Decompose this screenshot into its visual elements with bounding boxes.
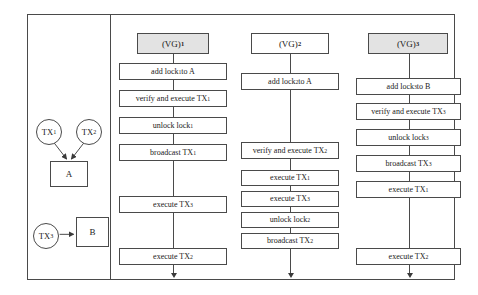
step-label-suffix: to A (181, 68, 195, 76)
dependency-graph-panel: TX1 TX2 A TX3 B (28, 15, 111, 279)
step-label: execute TX (389, 253, 426, 261)
flow-arrow-head (407, 273, 413, 278)
step-box: unlock lock3 (356, 129, 461, 146)
step-label: execute TX (153, 253, 190, 261)
flow-connector (290, 90, 291, 142)
step-box: execute TX1 (356, 181, 461, 198)
graph-node-tx1-label: TX (42, 127, 53, 137)
validator-group-column-2: (VG)2add lock2 to Averify and execute TX… (241, 15, 339, 279)
step-box: verify and execute TX2 (241, 142, 339, 159)
step-box: add lock2 to A (241, 73, 339, 90)
step-box: execute TX1 (241, 170, 339, 186)
step-label: unlock lock (270, 216, 308, 224)
flow-connector (409, 95, 410, 103)
step-label-suffix: to A (298, 78, 312, 86)
step-label: add lock (387, 83, 414, 91)
flow-connector (173, 107, 174, 117)
graph-node-tx2: TX2 (76, 119, 102, 145)
step-label: add lock (151, 68, 178, 76)
step-label: verify and execute TX (253, 147, 325, 155)
flow-connector (290, 207, 291, 212)
step-box: unlock lock1 (119, 117, 227, 134)
validator-group-header-1: (VG)1 (137, 33, 209, 54)
validator-group-column-3: (VG)3add lock3 to Bverify and execute TX… (356, 15, 461, 279)
validator-group-header-label-1: (VG) (162, 39, 181, 49)
step-label: execute TX (153, 201, 190, 209)
step-label: execute TX (389, 186, 426, 194)
flow-connector (409, 198, 410, 248)
flow-connector (173, 213, 174, 248)
graph-node-tx1: TX1 (36, 119, 62, 145)
step-box: unlock lock2 (241, 212, 339, 228)
step-box: execute TX3 (119, 196, 227, 213)
flow-connector (409, 172, 410, 181)
step-label: unlock lock (153, 122, 191, 130)
flow-connector (290, 54, 291, 73)
graph-node-tx2-label: TX (82, 127, 93, 137)
flow-arrow-head (288, 273, 294, 278)
validator-group-header-label-2: (VG) (279, 39, 298, 49)
validator-group-header-3: (VG)3 (368, 33, 448, 54)
validator-group-column-1: (VG)1add lock1 to Averify and execute TX… (119, 15, 227, 279)
graph-node-tx3-label: TX (39, 231, 50, 241)
flow-connector (173, 54, 174, 63)
step-label: broadcast TX (267, 237, 310, 245)
step-box: execute TX2 (119, 248, 227, 265)
step-box: verify and execute TX3 (356, 103, 461, 120)
flow-connector (290, 159, 291, 170)
graph-node-b-label: B (89, 227, 95, 237)
step-box: add lock3 to B (356, 78, 461, 95)
flow-connector (173, 161, 174, 196)
step-label: verify and execute TX (371, 108, 443, 116)
step-label: unlock lock (388, 134, 426, 142)
flow-connector (409, 146, 410, 155)
flow-connector (173, 80, 174, 90)
flow-arrow-head (171, 273, 177, 278)
step-box: verify and execute TX1 (119, 90, 227, 107)
flow-connector (290, 186, 291, 191)
step-label-suffix: to B (417, 83, 431, 91)
graph-node-b: B (76, 217, 109, 247)
validator-group-columns: (VG)1add lock1 to Averify and execute TX… (111, 15, 454, 279)
figure-frame: TX1 TX2 A TX3 B (VG)1add lock1 to Averif… (27, 14, 455, 280)
step-label: add lock (268, 78, 295, 86)
step-label: execute TX (270, 174, 307, 182)
step-label: verify and execute TX (136, 95, 208, 103)
step-label: execute TX (270, 195, 307, 203)
step-box: execute TX2 (356, 248, 461, 265)
step-box: execute TX3 (241, 191, 339, 207)
step-box: broadcast TX2 (241, 233, 339, 249)
flow-connector (173, 134, 174, 144)
step-label: broadcast TX (150, 149, 193, 157)
flow-connector (290, 228, 291, 233)
graph-node-tx3: TX3 (33, 223, 59, 249)
graph-node-a: A (50, 161, 88, 187)
flow-connector (409, 54, 410, 78)
validator-group-header-label-3: (VG) (397, 39, 416, 49)
validator-group-header-2: (VG)2 (251, 33, 329, 54)
flow-connector-terminal (290, 249, 291, 274)
step-label: broadcast TX (385, 160, 428, 168)
step-box: add lock1 to A (119, 63, 227, 80)
step-box: broadcast TX1 (119, 144, 227, 161)
flow-connector (409, 120, 410, 129)
step-box: broadcast TX3 (356, 155, 461, 172)
graph-node-a-label: A (66, 169, 73, 179)
